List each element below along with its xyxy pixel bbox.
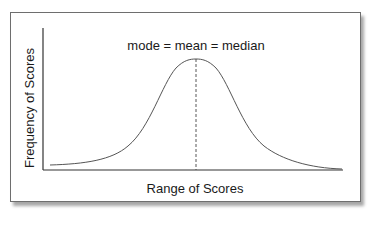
y-axis-label: Frequency of Scores (22, 38, 38, 178)
x-axis-label: Range of Scores (115, 181, 275, 196)
mode-mean-median-label: mode = mean = median (96, 38, 296, 53)
